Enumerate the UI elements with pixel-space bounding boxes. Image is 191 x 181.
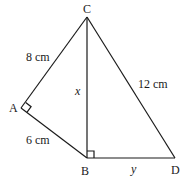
length-label-ab: 6 cm xyxy=(26,133,50,147)
length-label-cb: x xyxy=(74,84,81,98)
point-label-a: A xyxy=(9,101,18,115)
geometry-diagram: C A B D 8 cm 6 cm x 12 cm y xyxy=(0,0,191,181)
length-label-cd: 12 cm xyxy=(138,77,168,91)
length-label-ca: 8 cm xyxy=(26,50,50,64)
point-label-c: C xyxy=(83,2,91,16)
length-label-bd: y xyxy=(130,162,137,176)
point-label-b: B xyxy=(81,164,89,178)
right-angle-marker-a xyxy=(26,103,31,113)
point-label-d: D xyxy=(171,163,180,177)
right-angle-marker-b xyxy=(87,151,94,158)
